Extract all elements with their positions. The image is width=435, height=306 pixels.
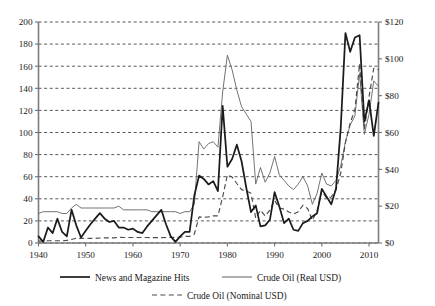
y-left-tick-label-160: 160 (19, 62, 33, 72)
chart-legend: News and Magazine HitsCrude Oil (Real US… (60, 273, 341, 302)
chart-container: 020406080100120140160180200 $0$20$40$60$… (0, 0, 435, 306)
y-left-tick-label-60: 60 (23, 172, 33, 182)
y-left-tick-label-40: 40 (23, 194, 33, 204)
y-right-tick-label-0: $0 (385, 238, 395, 248)
y-right-tick-label-120: $120 (385, 17, 404, 27)
x-tick-label-2010: 2010 (360, 250, 379, 260)
x-tick-label-1990: 1990 (265, 250, 284, 260)
y-right-tick-label-60: $60 (385, 128, 399, 138)
data-series-group (39, 33, 379, 242)
series-line-crude-oil-nominal-usd (39, 64, 379, 241)
x-tick-label-1940: 1940 (29, 250, 48, 260)
legend-label-crude-oil-nominal-usd: Crude Oil (Nominal USD) (187, 291, 287, 302)
legend-item-news-and-magazine-hits: News and Magazine Hits (60, 273, 190, 283)
y-left-tick-label-100: 100 (19, 128, 33, 138)
gridlines-group (39, 22, 379, 243)
y-right-tick-label-40: $40 (385, 165, 399, 175)
y-right-tick-label-80: $80 (385, 91, 399, 101)
legend-item-crude-oil-nominal-usd: Crude Oil (Nominal USD) (152, 291, 287, 302)
y-left-tick-label-80: 80 (23, 150, 33, 160)
y-left-tick-label-120: 120 (19, 106, 33, 116)
y-left-tick-label-20: 20 (23, 216, 33, 226)
series-line-crude-oil-real-usd (39, 55, 379, 213)
y-left-tick-label-0: 0 (28, 238, 33, 248)
y-left-tick-label-200: 200 (19, 17, 33, 27)
y-right-tick-label-20: $20 (385, 201, 399, 211)
y-right-tick-label-100: $100 (385, 54, 404, 64)
x-tick-label-1980: 1980 (218, 250, 237, 260)
y-left-tick-label-140: 140 (19, 84, 33, 94)
x-tick-label-2000: 2000 (313, 250, 332, 260)
legend-label-news-and-magazine-hits: News and Magazine Hits (95, 273, 190, 283)
y-axis-left-ticks: 020406080100120140160180200 (19, 17, 39, 248)
x-axis-ticks: 19401950196019701980199020002010 (29, 243, 378, 260)
x-tick-label-1950: 1950 (77, 250, 96, 260)
legend-item-crude-oil-real-usd: Crude Oil (Real USD) (222, 273, 341, 284)
x-tick-label-1960: 1960 (124, 250, 143, 260)
line-chart-plot: 020406080100120140160180200 $0$20$40$60$… (0, 0, 435, 306)
x-tick-label-1970: 1970 (171, 250, 190, 260)
y-axis-right-ticks: $0$20$40$60$80$100$120 (379, 17, 404, 248)
legend-label-crude-oil-real-usd: Crude Oil (Real USD) (257, 273, 341, 284)
y-left-tick-label-180: 180 (19, 39, 33, 49)
series-line-news-and-magazine-hits (39, 33, 379, 242)
